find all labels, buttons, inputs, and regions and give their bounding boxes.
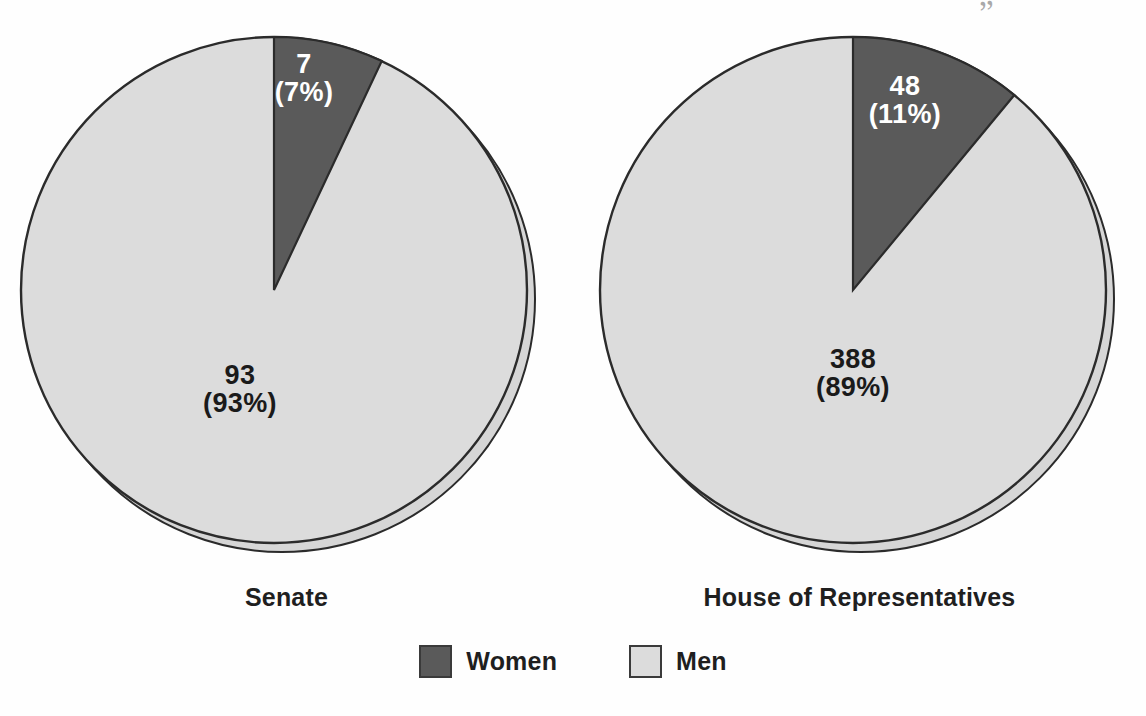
house-pie-svg <box>573 0 1146 600</box>
legend-item-women: Women <box>419 645 557 678</box>
legend-label-men: Men <box>676 647 727 676</box>
pie-chart-house: 48 (11%) 388 (89%) House of Representati… <box>573 0 1146 600</box>
chart-legend: Women Men <box>0 645 1146 678</box>
legend-item-men: Men <box>629 645 727 678</box>
legend-swatch-men-icon <box>629 645 662 678</box>
legend-swatch-women-icon <box>419 645 452 678</box>
senate-pie-svg <box>0 0 573 600</box>
pie-chart-senate: 7 (7%) 93 (93%) Senate <box>0 0 573 600</box>
senate-caption: Senate <box>0 583 573 612</box>
pie-chart-figure: ” 7 (7%) 93 (93%) Senate <box>0 0 1146 716</box>
house-caption: House of Representatives <box>573 583 1146 612</box>
legend-label-women: Women <box>466 647 557 676</box>
